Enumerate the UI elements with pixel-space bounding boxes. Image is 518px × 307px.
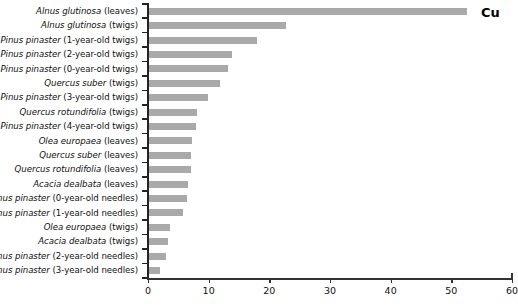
- bar: [148, 195, 187, 202]
- bar-row: [148, 33, 512, 47]
- bar: [148, 123, 196, 130]
- category-label-row: Quercus suber (leaves): [0, 148, 142, 162]
- category-label-row: Pinus pinaster (2-year-old twigs): [0, 47, 142, 61]
- category-label-row: Quercus suber (twigs): [0, 76, 142, 90]
- y-axis-tick: [142, 104, 147, 106]
- x-axis-tick-label: 0: [145, 286, 151, 296]
- category-label-row: Quercus rotundifolia (twigs): [0, 105, 142, 119]
- plant-part: (0-year-old twigs): [61, 64, 138, 74]
- plant-part: (3-year-old twigs): [61, 92, 138, 102]
- category-label-row: Pinus pinaster (3-year-old needles): [0, 263, 142, 277]
- category-label-row: Pinus pinaster (0-year-old needles): [0, 191, 142, 205]
- bar: [148, 224, 170, 231]
- category-label: Pinus pinaster (0-year-old needles): [0, 194, 142, 203]
- species-name: Quercus suber: [39, 150, 101, 160]
- species-name: Pinus pinaster: [0, 121, 60, 131]
- x-axis-tick: [391, 278, 392, 283]
- category-label-row: Alnus glutinosa (leaves): [0, 4, 142, 18]
- plant-part: (twigs): [106, 20, 138, 30]
- bar: [148, 267, 160, 274]
- plant-part: (twigs): [106, 236, 138, 246]
- x-axis-tick-label: 10: [203, 286, 215, 296]
- bar: [148, 137, 192, 144]
- species-name: Olea europaea: [44, 222, 107, 232]
- category-label: Olea europaea (twigs): [44, 223, 142, 232]
- x-axis-tick-label: 40: [385, 286, 397, 296]
- y-axis-line: [147, 3, 149, 279]
- plant-part: (leaves): [101, 179, 138, 189]
- category-label-row: Pinus pinaster (2-year-old needles): [0, 249, 142, 263]
- category-label-row: Acacia dealbata (twigs): [0, 235, 142, 249]
- category-label: Quercus suber (twigs): [44, 79, 142, 88]
- y-axis-tick: [142, 205, 147, 207]
- species-name: Quercus rotundifolia: [20, 107, 107, 117]
- bar-row: [148, 162, 512, 176]
- species-name: Olea europaea: [39, 136, 102, 146]
- x-axis-tick: [451, 278, 452, 283]
- bar: [148, 181, 188, 188]
- x-axis-tick: [269, 278, 270, 283]
- category-label-row: Pinus pinaster (3-year-old twigs): [0, 90, 142, 104]
- bar-row: [148, 90, 512, 104]
- y-axis-tick: [142, 90, 147, 92]
- bar: [148, 238, 168, 245]
- species-name: Acacia dealbata: [33, 179, 101, 189]
- category-label-row: Olea europaea (leaves): [0, 134, 142, 148]
- x-axis-tick-label: 60: [506, 286, 518, 296]
- category-label: Pinus pinaster (3-year-old needles): [0, 266, 142, 275]
- category-label-row: Quercus rotundifolia (leaves): [0, 162, 142, 176]
- plant-part: (leaves): [101, 150, 138, 160]
- plant-part: (0-year-old needles): [50, 193, 138, 203]
- y-axis-tick: [142, 118, 147, 120]
- bar: [148, 152, 191, 159]
- bar-row: [148, 119, 512, 133]
- species-name: Pinus pinaster: [0, 35, 60, 45]
- bar: [148, 8, 467, 15]
- y-axis-tick: [142, 219, 147, 221]
- plant-part: (leaves): [101, 136, 138, 146]
- species-name: Pinus pinaster: [0, 265, 50, 275]
- y-axis-tick: [142, 17, 147, 19]
- category-label-row: Alnus glutinosa (twigs): [0, 18, 142, 32]
- category-label-row: Olea europaea (twigs): [0, 220, 142, 234]
- category-label: Quercus rotundifolia (twigs): [20, 108, 142, 117]
- species-name: Alnus glutinosa: [41, 20, 106, 30]
- x-axis-tick: [512, 278, 513, 283]
- bar-row: [148, 4, 512, 18]
- plant-part: (twigs): [106, 222, 138, 232]
- y-axis-tick: [142, 234, 147, 236]
- bar: [148, 109, 197, 116]
- plant-part: (leaves): [101, 164, 138, 174]
- species-name: Pinus pinaster: [0, 49, 60, 59]
- plant-part: (4-year-old twigs): [61, 121, 138, 131]
- x-axis-tick: [148, 278, 149, 283]
- bar: [148, 94, 208, 101]
- category-label-row: Acacia dealbata (leaves): [0, 177, 142, 191]
- x-axis-tick-label: 30: [324, 286, 336, 296]
- category-label: Pinus pinaster (2-year-old twigs): [0, 50, 142, 59]
- category-label-row: Pinus pinaster (0-year-old twigs): [0, 62, 142, 76]
- bar: [148, 22, 286, 29]
- bar-row: [148, 47, 512, 61]
- plant-part: (2-year-old twigs): [61, 49, 138, 59]
- y-axis-tick: [142, 190, 147, 192]
- y-axis-tick: [142, 3, 147, 5]
- plant-part: (twigs): [106, 107, 138, 117]
- y-axis-tick: [142, 176, 147, 178]
- y-axis-tick: [142, 32, 147, 34]
- species-name: Acacia dealbata: [38, 236, 106, 246]
- y-axis-tick: [142, 162, 147, 164]
- plant-part: (2-year-old needles): [50, 251, 138, 261]
- category-label: Olea europaea (leaves): [39, 137, 142, 146]
- plant-part: (1-year-old twigs): [61, 35, 138, 45]
- y-axis-tick: [142, 248, 147, 250]
- x-axis-tick-label: 50: [445, 286, 457, 296]
- y-axis-tick: [142, 46, 147, 48]
- element-annotation-label: Cu: [481, 6, 500, 19]
- y-axis-tick: [142, 133, 147, 135]
- bar-row: [148, 18, 512, 32]
- bar: [148, 253, 166, 260]
- bar-row: [148, 263, 512, 277]
- plot-area: [148, 4, 512, 278]
